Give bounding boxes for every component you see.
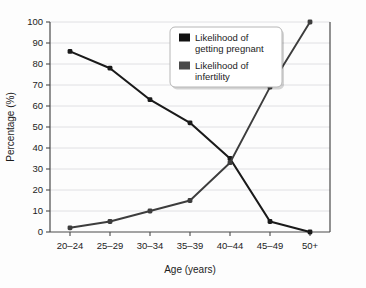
legend-label-line1: Likelihood of — [195, 60, 249, 71]
y-axis-title: Percentage (%) — [5, 92, 16, 161]
data-point-marker[interactable] — [228, 160, 233, 165]
data-point-marker[interactable] — [268, 219, 273, 224]
data-point-marker[interactable] — [68, 225, 73, 230]
legend-label-line2: infertility — [195, 71, 230, 82]
x-axis-tick-label: 35–39 — [177, 240, 203, 251]
x-axis-tick-label: 20–24 — [57, 240, 83, 251]
x-axis-tick-label: 25–29 — [97, 240, 123, 251]
y-axis-tick-label: 0 — [38, 226, 43, 237]
y-axis-tick-label: 90 — [32, 37, 43, 48]
data-point-marker[interactable] — [108, 219, 113, 224]
y-axis-tick-label: 10 — [32, 205, 43, 216]
y-axis-tick-label: 20 — [32, 184, 43, 195]
y-axis-tick-label: 60 — [32, 100, 43, 111]
y-axis-tick-label: 40 — [32, 142, 43, 153]
data-point-marker[interactable] — [108, 66, 113, 71]
y-axis-ticks-group: 0102030405060708090100 — [27, 16, 50, 237]
x-axis-tick-label: 45–49 — [257, 240, 283, 251]
legend-label-line1: Likelihood of — [195, 32, 249, 43]
x-axis-tick-label: 40–44 — [217, 240, 243, 251]
legend-label-line2: getting pregnant — [195, 43, 264, 54]
legend-swatch-2[interactable] — [179, 62, 190, 70]
y-axis-tick-label: 50 — [32, 121, 43, 132]
legend-swatch-1[interactable] — [179, 34, 190, 42]
y-axis-tick-label: 30 — [32, 163, 43, 174]
y-axis-tick-label: 80 — [32, 58, 43, 69]
y-axis-tick-label: 100 — [27, 16, 43, 27]
line-chart: 0102030405060708090100 20–2425–2930–3435… — [0, 0, 366, 288]
chart-legend[interactable]: Likelihood ofgetting pregnantLikelihood … — [170, 27, 284, 90]
data-point-marker[interactable] — [188, 198, 193, 203]
x-axis-tick-label: 30–34 — [137, 240, 163, 251]
data-point-marker[interactable] — [188, 120, 193, 125]
y-axis-tick-label: 70 — [32, 79, 43, 90]
x-axis-tick-label: 50+ — [302, 240, 319, 251]
x-axis-title: Age (years) — [164, 264, 216, 275]
chart-container: 0102030405060708090100 20–2425–2930–3435… — [0, 0, 366, 288]
data-point-marker[interactable] — [148, 97, 153, 102]
x-axis-ticks-group: 20–2425–2930–3435–3940–4445–4950+ — [57, 232, 319, 251]
data-point-marker[interactable] — [308, 20, 313, 25]
data-point-marker[interactable] — [68, 49, 73, 54]
data-point-marker[interactable] — [148, 209, 153, 214]
data-point-marker[interactable] — [308, 230, 313, 235]
